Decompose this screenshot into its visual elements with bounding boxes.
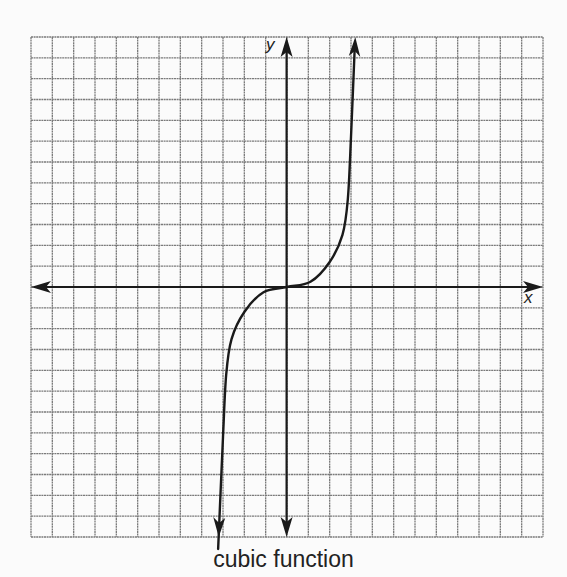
chart-caption: cubic function xyxy=(0,546,567,573)
y-axis-label: y xyxy=(266,35,275,55)
x-axis-label: x xyxy=(524,288,533,308)
cubic-function-graph xyxy=(0,0,567,577)
